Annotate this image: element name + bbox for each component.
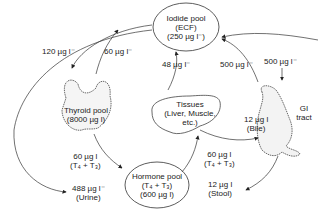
flow-thyroid-to-hormone: 60 µg l (T₄ + T₃) xyxy=(70,152,101,170)
bile-value: 12 µg l xyxy=(244,115,268,124)
hormone-pool-title: Hormone pool xyxy=(128,172,186,181)
hormone-tissues-value: 60 µg l xyxy=(204,150,235,159)
iodide-pool-title: Iodide pool xyxy=(160,14,212,23)
urine-label: (Urine) xyxy=(72,193,105,202)
stool-value: 12 µg l xyxy=(208,180,232,189)
flow-tissues-to-iodide: 48 µg l⁻ xyxy=(162,60,190,69)
iodide-pool-sub: (ECF) xyxy=(160,23,212,32)
flow-bile: 12 µg l (Bile) xyxy=(244,115,268,133)
flow-urine: 488 µg l⁻ (Urine) xyxy=(72,184,105,202)
iodide-pool-label: Iodide pool (ECF) (250 µg l⁻) xyxy=(160,14,212,41)
bile-label: (Bile) xyxy=(244,124,268,133)
thyroid-hormone-sub: (T₄ + T₃) xyxy=(70,161,101,170)
flow-gi-to-iodide: 500 µg l⁻ xyxy=(220,60,253,69)
flow-hormone-to-tissues: 60 µg l (T₄ + T₃) xyxy=(204,150,235,168)
tissues-sub: (Liver, Muscle, xyxy=(160,109,220,118)
gi-title: GI xyxy=(294,104,314,113)
tissues-title: Tissues xyxy=(160,100,220,109)
thyroid-pool-label: Thyroid pool (8000 µg l) xyxy=(58,106,114,124)
flow-thyroid-to-iodide: 60 µg l⁻ xyxy=(104,47,132,56)
flow-intake: 500 µg l⁻ xyxy=(264,57,297,66)
tissues-sub2: etc.) xyxy=(160,118,220,127)
thyroid-hormone-value: 60 µg l xyxy=(70,152,101,161)
thyroid-pool-value: (8000 µg l) xyxy=(58,115,114,124)
flow-iodide-to-thyroid: 120 µg l⁻ xyxy=(42,47,75,56)
hormone-pool-label: Hormone pool (T₄ + T₃) (600 µg l) xyxy=(128,172,186,199)
gi-sub: tract xyxy=(294,113,314,122)
tissues-label: Tissues (Liver, Muscle, etc.) xyxy=(160,100,220,127)
iodide-pool-value: (250 µg l⁻) xyxy=(160,32,212,41)
hormone-tissues-sub: (T₄ + T₃) xyxy=(204,159,235,168)
stool-label: (Stool) xyxy=(208,189,232,198)
hormone-pool-sub: (T₄ + T₃) xyxy=(128,181,186,190)
urine-value: 488 µg l⁻ xyxy=(72,184,105,193)
gi-tract-label: GI tract xyxy=(294,104,314,122)
hormone-pool-value: (600 µg l) xyxy=(128,190,186,199)
flow-stool: 12 µg l (Stool) xyxy=(208,180,232,198)
thyroid-pool-title: Thyroid pool xyxy=(58,106,114,115)
